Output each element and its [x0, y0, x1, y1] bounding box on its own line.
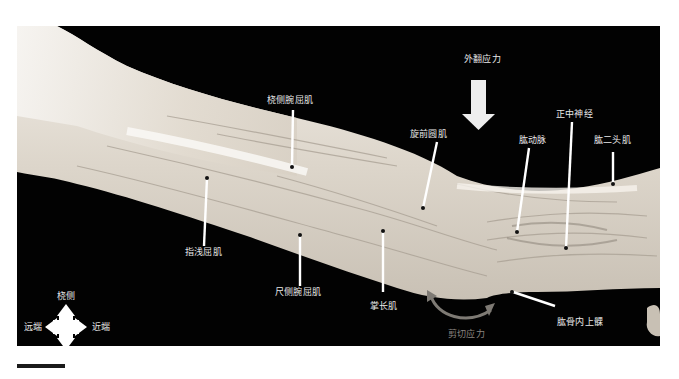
label-shear-stress: 剪切应力	[448, 330, 485, 339]
compass-label-proximal: 近端	[92, 323, 110, 332]
label-valgus-stress: 外翻应力	[464, 55, 501, 64]
label-flexor-carpi-ulnaris: 尺侧腕屈肌	[275, 288, 321, 297]
forearm-specimen	[17, 26, 660, 346]
label-flexor-carpi-radialis: 桡侧腕屈肌	[267, 96, 313, 105]
compass-label-distal: 远端	[24, 323, 42, 332]
dissection-photo: 外翻应力 桡侧腕屈肌 旋前圆肌 肱动脉 正中神经 肱二头肌 指浅屈肌 尺侧腕屈肌…	[17, 26, 660, 346]
label-flexor-digitorum-superficialis: 指浅屈肌	[185, 248, 222, 257]
compass-label-radial: 桡侧	[57, 292, 75, 301]
label-brachial-artery: 肱动脉	[519, 136, 547, 145]
caption-bar	[17, 364, 65, 368]
valgus-stress-arrow-icon	[462, 80, 495, 130]
orientation-compass-icon	[45, 304, 87, 346]
label-biceps-brachii: 肱二头肌	[594, 136, 631, 145]
label-pronator-teres: 旋前圆肌	[410, 130, 447, 139]
label-medial-epicondyle: 肱骨内上髁	[557, 318, 603, 327]
label-median-nerve: 正中神经	[556, 110, 593, 119]
label-palmaris-longus: 掌长肌	[370, 302, 398, 311]
